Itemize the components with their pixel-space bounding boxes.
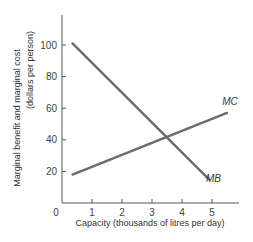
- x-axis-title: Capacity (thousands of litres per day): [75, 218, 224, 228]
- axes: 01234520406080100: [40, 15, 239, 218]
- curve-label-mb: MB: [206, 173, 221, 184]
- x-tick-label: 0: [53, 207, 59, 218]
- y-axis-title-line2: (dollars per person): [25, 31, 35, 109]
- y-tick-label: 80: [46, 71, 58, 82]
- y-tick-label: 100: [40, 40, 57, 51]
- y-tick-label: 20: [46, 166, 58, 177]
- x-tick-label: 5: [209, 207, 215, 218]
- curve-label-mc: MC: [222, 96, 238, 107]
- y-tick-label: 40: [46, 134, 58, 145]
- x-tick-label: 1: [89, 207, 95, 218]
- x-tick-label: 2: [119, 207, 125, 218]
- curve-mc: [73, 113, 228, 175]
- x-tick-label: 3: [149, 207, 155, 218]
- curve-mb: [73, 43, 210, 179]
- labels-layer: MCMBCapacity (thousands of litres per da…: [12, 31, 239, 228]
- chart: 01234520406080100 MCMBCapacity (thousand…: [0, 0, 253, 242]
- y-tick-label: 60: [46, 103, 58, 114]
- y-axis-title-line1: Marginal benefit and marginal cost: [12, 49, 22, 187]
- x-tick-label: 4: [179, 207, 185, 218]
- series-layer: [73, 43, 228, 179]
